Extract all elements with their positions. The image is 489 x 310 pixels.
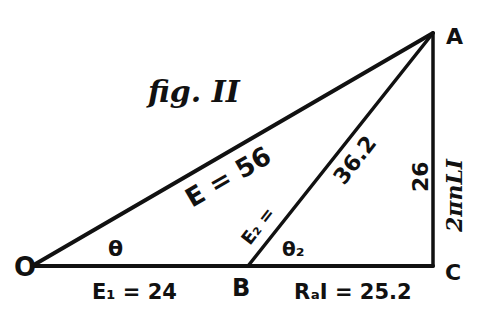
vector-diagram: A O B C fig. II E = 56 36.2 E₂ = 26 2πnL… <box>0 0 489 310</box>
vertex-b-label: B <box>232 274 250 302</box>
edge-ca-label: 26 <box>408 161 433 192</box>
diagram-canvas: A O B C fig. II E = 56 36.2 E₂ = 26 2πnL… <box>0 0 489 310</box>
edge-bc-label: RₐI = 25.2 <box>294 280 412 304</box>
edge-ba <box>248 33 433 266</box>
figure-title: fig. II <box>146 74 241 109</box>
edge-ba-side-label: E₂ = <box>237 203 279 249</box>
angle-theta2-label: θ₂ <box>282 237 305 261</box>
edge-ca-side-label: 2πnLI <box>441 158 467 233</box>
vertex-o-label: O <box>14 252 36 282</box>
vertex-a-label: A <box>446 24 463 49</box>
angle-theta-label: θ <box>108 236 123 261</box>
edge-ob-label: E₁ = 24 <box>92 280 177 304</box>
vertex-c-label: C <box>445 260 461 285</box>
edge-ba-label: 36.2 <box>328 131 381 189</box>
